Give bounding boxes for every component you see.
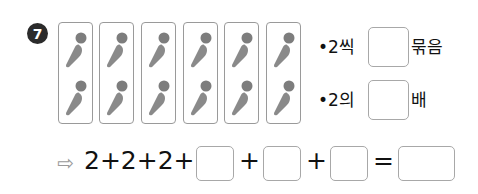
statement-2-prefix: •2의 — [318, 90, 355, 110]
equation-blank-1[interactable] — [196, 146, 234, 181]
bullet: • — [318, 37, 328, 57]
carrot-icon — [104, 31, 130, 69]
plus-sign: + — [239, 146, 260, 176]
carrot-card-5 — [224, 22, 259, 124]
bullet: • — [318, 90, 328, 110]
carrot-card-3 — [141, 22, 176, 124]
statement-1-suffix: 묶음 — [411, 37, 443, 57]
times-answer-box[interactable] — [368, 80, 409, 120]
groups-answer-box[interactable] — [368, 27, 409, 67]
problem-number-badge: 7 — [27, 23, 48, 44]
carrot-icon — [188, 31, 214, 69]
carrot-icon — [229, 79, 255, 117]
carrot-icon — [229, 31, 255, 69]
carrot-icon — [104, 79, 130, 117]
equation-result-box[interactable] — [398, 146, 455, 181]
carrot-card-2 — [99, 22, 134, 124]
equals-sign: = — [373, 146, 394, 176]
plus-sign: + — [306, 146, 327, 176]
equation-blank-3[interactable] — [330, 146, 368, 181]
problem-number: 7 — [33, 26, 43, 42]
carrot-card-6 — [266, 22, 301, 124]
carrot-icon — [146, 79, 172, 117]
statement-1-prefix: •2씩 — [318, 37, 355, 57]
carrot-icon — [63, 31, 89, 69]
carrot-icon — [271, 31, 297, 69]
carrot-icon — [188, 79, 214, 117]
carrot-icon — [271, 79, 297, 117]
carrot-icon — [63, 79, 89, 117]
equation-blank-2[interactable] — [263, 146, 301, 181]
equation-prefix: 2+2+2+ — [84, 146, 195, 176]
carrot-card-4 — [183, 22, 218, 124]
statement-2-suffix: 배 — [411, 90, 427, 110]
carrot-card-1 — [58, 22, 93, 124]
arrow-icon: ⇨ — [57, 151, 74, 175]
carrot-icon — [146, 31, 172, 69]
